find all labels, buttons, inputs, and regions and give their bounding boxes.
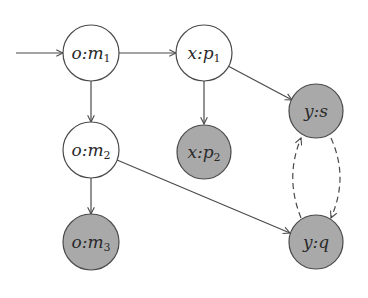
state-graph-diagram: o:m1 x:p1 y:s o:m2 x:p2 o:m3 y:q xyxy=(0,0,368,298)
node-o-m2: o:m2 xyxy=(63,122,119,178)
node-y-q: y:q xyxy=(289,215,343,269)
svg-text:y:q: y:q xyxy=(302,232,329,252)
edge-x-p1-to-y-s xyxy=(228,66,292,100)
node-o-m1: o:m1 xyxy=(63,25,119,81)
edge-y-q-to-y-s-dashed xyxy=(293,138,301,218)
node-o-m3: o:m3 xyxy=(63,214,119,270)
svg-text:y:s: y:s xyxy=(303,101,328,121)
node-x-p1: x:p1 xyxy=(176,25,232,81)
edge-y-s-to-y-q-dashed xyxy=(331,138,340,218)
node-y-s: y:s xyxy=(289,84,343,138)
node-x-p2: x:p2 xyxy=(177,125,231,179)
